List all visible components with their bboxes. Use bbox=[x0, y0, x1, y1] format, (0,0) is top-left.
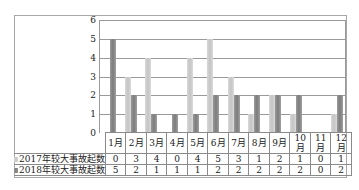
table-cell: 1 bbox=[187, 165, 208, 176]
y-tick-label: 1 bbox=[84, 109, 96, 119]
table-cell: 1 bbox=[290, 154, 311, 165]
table-cell: 1 bbox=[167, 165, 188, 176]
table-cell: 0 bbox=[105, 154, 126, 165]
y-tick-label: 6 bbox=[84, 15, 96, 25]
month-label: 12月 bbox=[331, 133, 352, 154]
bar-2018 bbox=[110, 39, 116, 133]
table-cell: 2 bbox=[228, 165, 249, 176]
month-label: 11月 bbox=[310, 133, 331, 154]
legend-key-2017 bbox=[14, 157, 18, 162]
table-cell: 5 bbox=[105, 165, 126, 176]
table-cell: 4 bbox=[146, 154, 167, 165]
month-label: 6月 bbox=[208, 133, 229, 154]
bar-2018 bbox=[337, 95, 343, 133]
table-cell: 4 bbox=[187, 154, 208, 165]
table-cell: 2 bbox=[290, 165, 311, 176]
series-label-2017: 2017年较大事故起数 bbox=[14, 154, 105, 165]
table-cell: 3 bbox=[228, 154, 249, 165]
table-cell: 1 bbox=[146, 165, 167, 176]
y-tick-label: 0 bbox=[84, 128, 96, 138]
month-header-row: 1月2月3月4月5月6月7月8月9月10月11月12月 bbox=[14, 133, 351, 154]
table-cell: 2 bbox=[331, 165, 352, 176]
month-label: 7月 bbox=[228, 133, 249, 154]
gridline bbox=[100, 77, 345, 78]
month-label: 2月 bbox=[126, 133, 147, 154]
table-cell: 0 bbox=[310, 154, 331, 165]
series-row-2017: 2017年较大事故起数 034045312101 bbox=[14, 154, 351, 165]
y-tick-label: 3 bbox=[84, 72, 96, 82]
table-cell: 2 bbox=[208, 165, 229, 176]
month-label: 8月 bbox=[249, 133, 270, 154]
month-label: 3月 bbox=[146, 133, 167, 154]
gridline bbox=[100, 58, 345, 59]
month-label: 9月 bbox=[269, 133, 290, 154]
series-label-text: 2018年较大事故起数 bbox=[19, 165, 105, 175]
table-cell: 2 bbox=[249, 165, 270, 176]
legend-key-2018 bbox=[14, 168, 18, 173]
table-cell: 1 bbox=[331, 154, 352, 165]
table-cell: 2 bbox=[269, 154, 290, 165]
data-table: 1月2月3月4月5月6月7月8月9月10月11月12月 2017年较大事故起数 … bbox=[14, 132, 352, 176]
bar-2018 bbox=[131, 95, 137, 133]
month-label: 5月 bbox=[187, 133, 208, 154]
table-cell: 0 bbox=[310, 165, 331, 176]
month-label: 1月 bbox=[105, 133, 126, 154]
series-label-2018: 2018年较大事故起数 bbox=[14, 165, 105, 176]
y-tick-label: 5 bbox=[84, 34, 96, 44]
month-label: 10月 bbox=[290, 133, 311, 154]
table-cell: 3 bbox=[126, 154, 147, 165]
plot-area bbox=[99, 20, 346, 133]
y-tick-label: 2 bbox=[84, 90, 96, 100]
bar-2018 bbox=[193, 114, 199, 133]
series-label-text: 2017年较大事故起数 bbox=[19, 154, 105, 164]
table-cell: 0 bbox=[167, 154, 188, 165]
table-cell: 2 bbox=[269, 165, 290, 176]
series-row-2018: 2018年较大事故起数 521112222202 bbox=[14, 165, 351, 176]
bar-2018 bbox=[151, 114, 157, 133]
bar-2018 bbox=[275, 95, 281, 133]
table-cell: 2 bbox=[126, 165, 147, 176]
bar-2018 bbox=[172, 114, 178, 133]
bar-2018 bbox=[296, 95, 302, 133]
bar-2018 bbox=[213, 95, 219, 133]
month-label: 4月 bbox=[167, 133, 188, 154]
y-tick-label: 4 bbox=[84, 53, 96, 63]
bar-2018 bbox=[234, 95, 240, 133]
gridline bbox=[100, 39, 345, 40]
table-cell: 5 bbox=[208, 154, 229, 165]
bar-2018 bbox=[254, 95, 260, 133]
table-cell: 1 bbox=[249, 154, 270, 165]
